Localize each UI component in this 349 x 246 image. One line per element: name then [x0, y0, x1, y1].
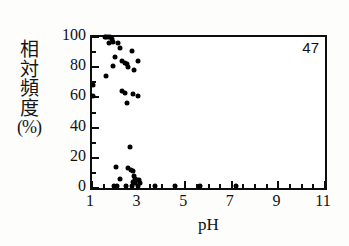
data-point — [113, 164, 118, 169]
x-axis-major-tick — [184, 181, 186, 188]
data-point — [126, 65, 131, 70]
data-point — [172, 184, 177, 189]
data-point — [233, 184, 238, 189]
x-axis-tick-label: 7 — [226, 193, 234, 209]
y-axis-major-tick — [92, 157, 99, 159]
data-point — [130, 48, 135, 53]
x-axis-minor-tick — [208, 184, 210, 188]
x-axis-minor-tick — [266, 184, 268, 188]
x-axis-minor-tick — [289, 184, 291, 188]
data-point — [135, 184, 140, 189]
data-point — [91, 93, 96, 98]
x-axis-tick-label: 1 — [86, 193, 94, 209]
data-point — [197, 184, 202, 189]
data-point — [123, 184, 128, 189]
x-axis-minor-tick — [219, 184, 221, 188]
data-point — [104, 74, 109, 79]
x-axis-minor-tick — [149, 184, 151, 188]
data-point — [114, 184, 119, 189]
y-axis-major-tick — [92, 36, 99, 38]
data-point — [127, 145, 132, 150]
scatter-plot-figure: 相 対 頻 度 (%) 020406080100 47 1357911 pH — [0, 0, 349, 246]
x-axis-tick-label: 9 — [272, 193, 280, 209]
y-axis-label-char: 度 — [14, 99, 44, 119]
y-axis-major-tick — [92, 187, 99, 189]
data-point — [91, 83, 96, 88]
x-axis-minor-tick — [242, 184, 244, 188]
x-axis-tick-labels: 1357911 — [90, 193, 327, 217]
y-axis-label-char: 頻 — [14, 79, 44, 99]
x-axis-minor-tick — [161, 184, 163, 188]
data-point — [118, 176, 123, 181]
y-axis-minor-tick — [92, 51, 96, 53]
y-axis-tick-label: 100 — [52, 27, 86, 43]
x-axis-tick-label: 3 — [133, 193, 141, 209]
x-axis-tick-label: 11 — [315, 193, 330, 209]
x-axis-minor-tick — [312, 184, 314, 188]
x-axis-major-tick — [231, 181, 233, 188]
y-axis-minor-tick — [92, 142, 96, 144]
y-axis-tick-label: 20 — [52, 148, 86, 164]
sample-count-annotation: 47 — [302, 40, 319, 55]
data-point — [117, 45, 122, 50]
y-axis-minor-tick — [92, 172, 96, 174]
x-axis-major-tick — [324, 181, 326, 188]
data-point — [111, 63, 116, 68]
data-point — [122, 90, 127, 95]
data-point — [132, 68, 137, 73]
data-point — [136, 93, 141, 98]
data-point — [135, 59, 140, 64]
y-axis-major-tick — [92, 127, 99, 129]
y-axis-tick-labels: 020406080100 — [46, 0, 86, 246]
y-axis-major-tick — [92, 66, 99, 68]
y-axis-label-unit: (%) — [14, 118, 44, 137]
x-axis-minor-tick — [301, 184, 303, 188]
y-axis-label: 相 対 頻 度 (%) — [14, 40, 44, 137]
y-axis-label-char: 相 — [14, 40, 44, 60]
y-axis-tick-label: 60 — [52, 87, 86, 103]
y-axis-tick-label: 0 — [52, 178, 86, 194]
data-point — [107, 41, 112, 46]
plot-area: 47 — [90, 35, 327, 190]
y-axis-tick-label: 40 — [52, 118, 86, 134]
x-axis-tick-label: 5 — [179, 193, 187, 209]
x-axis-label: pH — [90, 215, 327, 235]
x-axis-minor-tick — [103, 184, 105, 188]
data-point — [125, 101, 130, 106]
x-axis-major-tick — [277, 181, 279, 188]
y-axis-minor-tick — [92, 112, 96, 114]
data-point — [130, 184, 135, 189]
x-axis-major-tick — [91, 181, 93, 188]
y-axis-tick-label: 80 — [52, 57, 86, 73]
data-point — [152, 184, 157, 189]
data-point — [112, 54, 117, 59]
x-axis-minor-tick — [254, 184, 256, 188]
